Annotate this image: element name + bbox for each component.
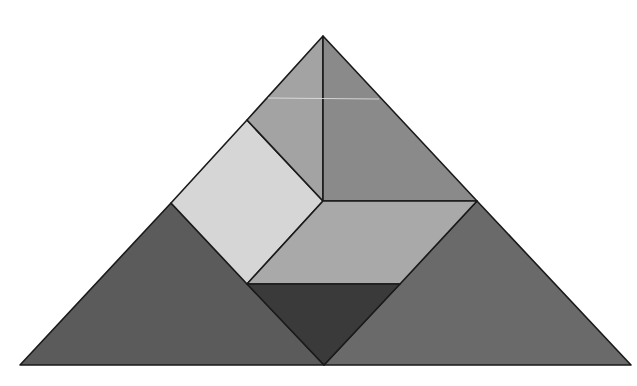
medium-triangle xyxy=(323,36,477,201)
tangram-canvas xyxy=(0,0,637,386)
